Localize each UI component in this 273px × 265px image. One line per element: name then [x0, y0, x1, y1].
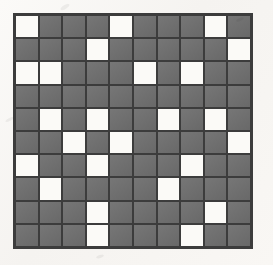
grid-cell: [180, 177, 204, 200]
grid-container: [13, 13, 253, 249]
grid-cell: [15, 38, 39, 61]
grid-cell: [227, 131, 251, 154]
grid-cell: [180, 85, 204, 108]
grid-cell: [157, 154, 181, 177]
grid-cell: [227, 177, 251, 200]
grid-cell: [133, 85, 157, 108]
grid-cell: [86, 15, 110, 38]
grid-cell: [39, 38, 63, 61]
grid-cell: [109, 108, 133, 131]
grid-cell: [157, 131, 181, 154]
grid-cell: [157, 108, 181, 131]
grid-cell: [62, 154, 86, 177]
grid-cell: [133, 201, 157, 224]
grid-cell: [39, 154, 63, 177]
square-grid: [13, 13, 253, 249]
grid-cell: [15, 15, 39, 38]
grid-cell: [86, 85, 110, 108]
grid-cell: [227, 38, 251, 61]
grid-cell: [86, 61, 110, 84]
grid-cell: [133, 224, 157, 247]
grid-cell: [62, 15, 86, 38]
grid-cell: [15, 224, 39, 247]
pencil-smudge-icon: [60, 3, 71, 12]
grid-cell: [157, 61, 181, 84]
pencil-smudge-icon: [96, 254, 105, 260]
grid-cell: [109, 224, 133, 247]
grid-cell: [227, 61, 251, 84]
grid-cell: [39, 177, 63, 200]
grid-cell: [133, 61, 157, 84]
grid-cell: [180, 61, 204, 84]
grid-cell: [62, 224, 86, 247]
grid-cell: [39, 224, 63, 247]
figure-title: 10 by 10 shaded square grid: [0, 0, 1, 1]
grid-cell: [15, 177, 39, 200]
grid-cell: [133, 177, 157, 200]
grid-cell: [157, 224, 181, 247]
grid-cell: [133, 108, 157, 131]
grid-cell: [204, 201, 228, 224]
grid-cell: [39, 201, 63, 224]
figure-canvas: 10 by 10 shaded square grid: [0, 0, 273, 265]
grid-cell: [133, 38, 157, 61]
grid-cell: [180, 108, 204, 131]
grid-cell: [15, 154, 39, 177]
grid-cell: [227, 108, 251, 131]
grid-cell: [157, 177, 181, 200]
grid-cell: [204, 61, 228, 84]
grid-cell: [39, 61, 63, 84]
grid-cell: [133, 15, 157, 38]
grid-cell: [86, 201, 110, 224]
grid-cell: [86, 224, 110, 247]
grid-cell: [62, 201, 86, 224]
grid-cell: [39, 131, 63, 154]
grid-cell: [227, 15, 251, 38]
grid-cell: [204, 15, 228, 38]
grid-cell: [62, 61, 86, 84]
grid-cell: [180, 15, 204, 38]
grid-cell: [86, 131, 110, 154]
grid-cell: [15, 85, 39, 108]
grid-cell: [109, 38, 133, 61]
grid-cell: [204, 224, 228, 247]
grid-cell: [62, 108, 86, 131]
grid-cell: [204, 154, 228, 177]
grid-cell: [86, 154, 110, 177]
grid-cell: [204, 38, 228, 61]
grid-cell: [157, 85, 181, 108]
grid-cell: [15, 61, 39, 84]
grid-cell: [86, 38, 110, 61]
grid-cell: [227, 201, 251, 224]
grid-cell: [86, 177, 110, 200]
grid-cell: [62, 177, 86, 200]
grid-cell: [227, 85, 251, 108]
grid-cell: [62, 131, 86, 154]
grid-cell: [15, 201, 39, 224]
grid-cell: [39, 15, 63, 38]
grid-cell: [109, 177, 133, 200]
grid-cell: [180, 154, 204, 177]
grid-cell: [157, 201, 181, 224]
grid-cell: [62, 38, 86, 61]
grid-cell: [109, 201, 133, 224]
grid-cell: [133, 154, 157, 177]
grid-cell: [227, 224, 251, 247]
grid-cell: [204, 131, 228, 154]
grid-cell: [157, 15, 181, 38]
grid-cell: [109, 15, 133, 38]
grid-cell: [180, 201, 204, 224]
grid-cell: [62, 85, 86, 108]
grid-cell: [15, 108, 39, 131]
grid-cell: [15, 131, 39, 154]
grid-cell: [180, 38, 204, 61]
grid-cell: [133, 131, 157, 154]
grid-cell: [109, 154, 133, 177]
grid-cell: [227, 154, 251, 177]
grid-cell: [204, 108, 228, 131]
grid-cell: [109, 61, 133, 84]
grid-cell: [204, 85, 228, 108]
grid-cell: [109, 131, 133, 154]
grid-cell: [180, 224, 204, 247]
grid-cell: [39, 85, 63, 108]
